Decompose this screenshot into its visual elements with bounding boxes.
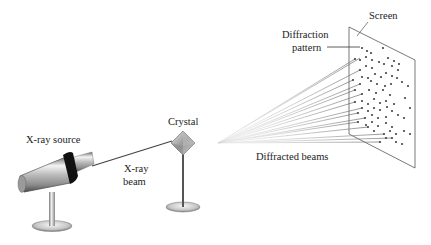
crystal-stand bbox=[166, 150, 200, 212]
diffraction-pattern-label-line1: Diffraction bbox=[282, 29, 328, 41]
crystal-octahedron-icon bbox=[171, 131, 195, 155]
crystal-label: Crystal bbox=[168, 116, 198, 128]
diffracted-beams-label: Diffracted beams bbox=[256, 151, 328, 163]
xray-diffraction-diagram: Screen Diffraction pattern Crystal X-ray… bbox=[0, 0, 431, 245]
screen-label: Screen bbox=[369, 10, 398, 22]
xray-beam-label-line2: beam bbox=[123, 176, 146, 188]
xray-tube-icon bbox=[18, 152, 94, 232]
xray-source-label: X-ray source bbox=[26, 134, 81, 146]
diffraction-pattern-label-line2: pattern bbox=[292, 42, 321, 54]
xray-beam-label-line1: X-ray bbox=[124, 163, 149, 175]
diagram-canvas bbox=[0, 0, 431, 245]
